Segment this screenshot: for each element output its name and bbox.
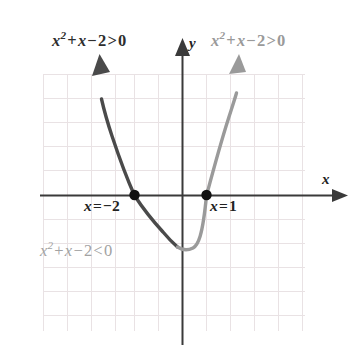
right-inequality-plus: + (225, 31, 237, 50)
negative-inequality-zero: 0 (104, 241, 112, 260)
left-branch-arrowhead (92, 54, 110, 76)
root-label-left: x=−2 (84, 198, 120, 214)
right-inequality-relation: > (265, 31, 277, 50)
quadratic-inequality-figure: x2+x−2>0 y x2+x−2>0 x2+x−2<0 x=−2 x=1 x (0, 0, 355, 356)
right-inequality-zero: 0 (277, 31, 285, 50)
root-left-var: x (84, 197, 92, 214)
negative-inequality-var: x (40, 241, 48, 260)
grid-lines (43, 74, 305, 331)
root-left-equals: = (92, 197, 103, 214)
x-axis-arrowhead (332, 189, 348, 202)
negative-inequality-plus: + (53, 241, 65, 260)
negative-inequality-minus: − (72, 241, 84, 260)
root-right-equals: = (218, 197, 229, 214)
left-inequality-zero: 0 (118, 31, 126, 50)
graph-canvas (0, 0, 355, 356)
right-branch-arrowhead (229, 54, 246, 74)
root-left-value: −2 (103, 197, 120, 214)
right-inequality-minus: − (245, 31, 257, 50)
label-negative-region-inequality: x2+x−2<0 (40, 240, 112, 259)
y-axis-arrowhead (175, 38, 190, 56)
left-inequality-minus: − (86, 31, 98, 50)
parabola-right-branch (178, 54, 247, 250)
root-point-left (129, 190, 139, 200)
left-inequality-plus: + (66, 31, 78, 50)
left-inequality-relation: > (106, 31, 118, 50)
negative-inequality-relation: < (92, 241, 104, 260)
root-right-var: x (210, 197, 218, 214)
label-left-branch-inequality: x2+x−2>0 (52, 30, 126, 49)
root-right-value: 1 (229, 197, 237, 214)
y-axis (175, 38, 190, 345)
x-axis-label: x (322, 172, 330, 187)
y-axis-label: y (189, 36, 196, 51)
root-label-right: x=1 (210, 198, 237, 214)
label-right-branch-inequality: x2+x−2>0 (211, 30, 285, 49)
